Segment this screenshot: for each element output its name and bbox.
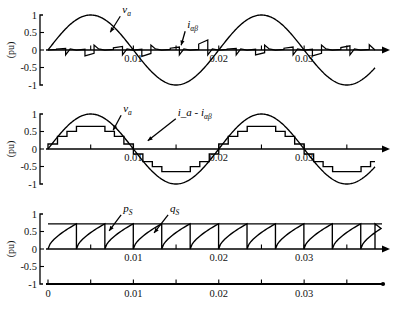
- svg-text:qS: qS: [170, 202, 180, 217]
- y-axis-unit-label: (pu): [5, 241, 17, 258]
- y-tick-label: -0.5: [20, 261, 37, 272]
- y-tick-label: -0.5: [20, 161, 37, 172]
- annotation-label: iαβ: [180, 18, 198, 45]
- chart-panel-1: -1-0.500.51(pu)0.010.020.03vaiαβ: [0, 2, 397, 102]
- waveform-figure: -1-0.500.51(pu)0.010.020.03vaiαβ -1-0.50…: [0, 0, 397, 311]
- chart-panel-3: -1-0.500.51(pu)0.010.020.0300.010.020.03…: [0, 200, 397, 311]
- annotation-label: i_a - iαβ: [148, 106, 212, 141]
- y-tick-label: 0.5: [24, 126, 37, 137]
- chart-panel-2: -1-0.500.51(pu)0.010.020.03vai_a - iαβ: [0, 101, 397, 201]
- x-tick-label-bottom: 0.03: [295, 288, 313, 299]
- y-tick-label: -0.5: [20, 62, 37, 73]
- x-tick-label-bottom: 0: [45, 288, 50, 299]
- y-tick-label: 1: [32, 209, 37, 220]
- y-tick-label: -1: [28, 279, 37, 290]
- y-axis-unit-label: (pu): [5, 141, 17, 158]
- annotation-label: va: [113, 102, 132, 130]
- y-tick-label: -1: [28, 80, 37, 91]
- svg-text:iαβ: iαβ: [187, 18, 198, 33]
- y-tick-label: 1: [32, 10, 37, 21]
- svg-text:va: va: [122, 3, 131, 18]
- svg-text:va: va: [123, 102, 132, 117]
- y-tick-label: 1: [32, 109, 37, 120]
- y-tick-label: 0: [32, 45, 37, 56]
- y-tick-label: 0.5: [24, 27, 37, 38]
- x-tick-label-bottom: 0.02: [210, 288, 228, 299]
- x-tick-label-bottom: 0.01: [124, 288, 142, 299]
- svg-text:pS: pS: [122, 202, 132, 217]
- series-q_S: [48, 224, 381, 249]
- y-tick-label: 0.5: [24, 226, 37, 237]
- x-tick-label: 0.03: [295, 252, 313, 263]
- x-tick-label: 0.02: [210, 252, 228, 263]
- annotation-label: qS: [154, 202, 180, 233]
- y-tick-label: 0: [32, 144, 37, 155]
- annotation-label: va: [110, 3, 131, 32]
- svg-text:i_a - iαβ: i_a - iαβ: [178, 106, 212, 121]
- y-tick-label: -1: [28, 179, 37, 190]
- y-tick-label: 0: [32, 244, 37, 255]
- x-tick-label: 0.01: [124, 252, 142, 263]
- y-axis-unit-label: (pu): [5, 42, 17, 59]
